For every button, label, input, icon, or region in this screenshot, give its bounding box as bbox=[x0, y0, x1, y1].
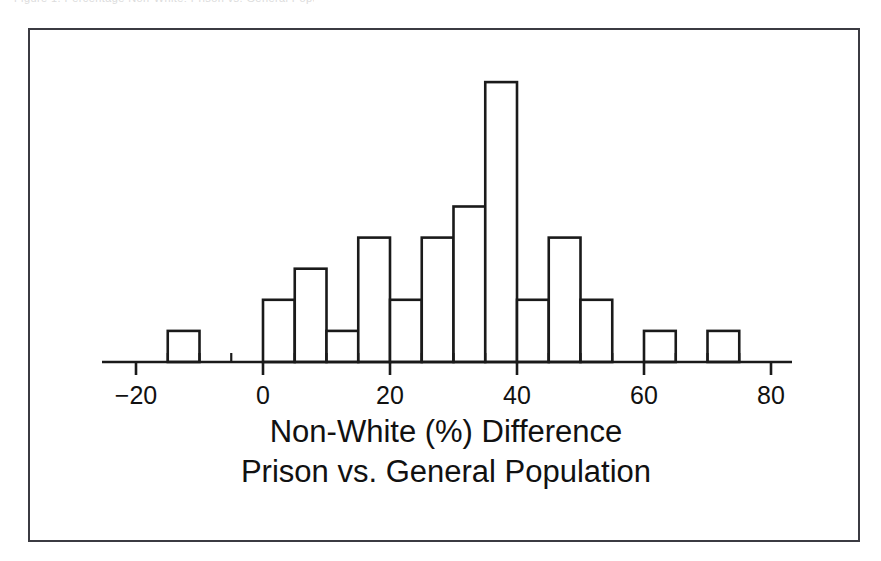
x-axis-tick-label: −20 bbox=[115, 381, 157, 409]
x-axis-tick-label: 0 bbox=[256, 381, 270, 409]
histogram-bar bbox=[390, 300, 422, 362]
histogram-bar bbox=[263, 300, 295, 362]
figure-page: Figure 1. Percentage Non-White: Prison v… bbox=[0, 0, 881, 561]
histogram-plot: −20020406080 Non-White (%) Difference Pr… bbox=[30, 30, 862, 544]
histogram-bar bbox=[168, 331, 200, 362]
histogram-bar bbox=[549, 238, 581, 362]
histogram-bar bbox=[454, 207, 486, 363]
histogram-bar bbox=[358, 238, 390, 362]
histogram-bar bbox=[485, 82, 517, 362]
x-axis-tick-labels: −20020406080 bbox=[115, 381, 785, 409]
histogram-bar bbox=[295, 269, 327, 362]
histogram-bar bbox=[581, 300, 613, 362]
x-axis-tick-label: 60 bbox=[630, 381, 658, 409]
x-axis-label-line2: Prison vs. General Population bbox=[241, 454, 651, 489]
x-axis-tick-label: 20 bbox=[376, 381, 404, 409]
x-axis-label-line1: Non-White (%) Difference bbox=[270, 414, 623, 449]
histogram-bar bbox=[708, 331, 740, 362]
figure-frame: −20020406080 Non-White (%) Difference Pr… bbox=[28, 28, 860, 542]
histogram-bar bbox=[422, 238, 454, 362]
histogram-bar bbox=[517, 300, 549, 362]
histogram-bar bbox=[327, 331, 359, 362]
x-axis-tick-label: 40 bbox=[503, 381, 531, 409]
x-axis-tick-label: 80 bbox=[757, 381, 785, 409]
histogram-bars bbox=[168, 82, 740, 362]
histogram-svg: −20020406080 Non-White (%) Difference Pr… bbox=[30, 30, 862, 544]
top-caption-cutoff: Figure 1. Percentage Non-White: Prison v… bbox=[14, 0, 314, 5]
histogram-bar bbox=[644, 331, 676, 362]
